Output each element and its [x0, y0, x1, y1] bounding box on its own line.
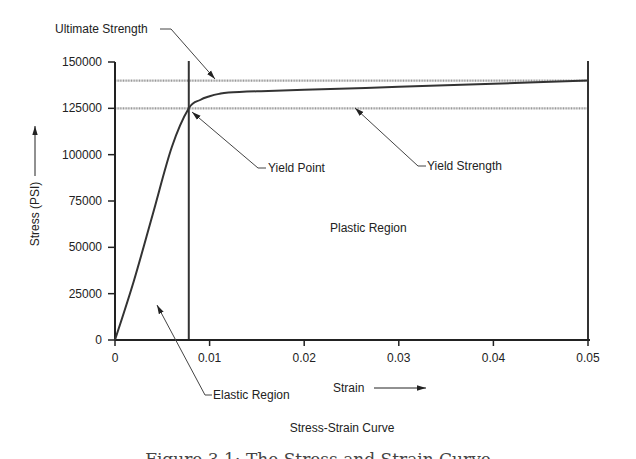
y-tick-label: 25000 [69, 287, 103, 301]
chart-title: Stress-Strain Curve [290, 421, 395, 435]
reference-lines [115, 61, 588, 340]
x-tick-label: 0.02 [293, 351, 317, 365]
x-axis-title: Strain [333, 381, 426, 395]
y-tick-label: 75000 [69, 194, 103, 208]
label-yield-point: Yield Point [268, 161, 326, 175]
annotation-ultimate-strength: Ultimate Strength [55, 22, 215, 79]
figure-caption: Figure 3.1: The Stress and Strain Curve [0, 446, 636, 459]
y-tick-label: 50000 [69, 240, 103, 254]
stress-strain-chart: 00.010.020.030.040.050250005000075000100… [0, 0, 636, 459]
x-tick-label: 0.01 [198, 351, 222, 365]
axis-ticks: 00.010.020.030.040.050250005000075000100… [62, 55, 600, 365]
y-tick-label: 150000 [62, 55, 102, 69]
y-axis-title: Stress (PSI) [28, 126, 42, 246]
x-axis-label: Strain [333, 381, 364, 395]
x-tick-label: 0.03 [387, 351, 411, 365]
annotation-elastic-region: Elastic Region [157, 305, 290, 402]
annotation-yield-point: Yield Point [140, 110, 326, 175]
x-tick-label: 0.05 [576, 351, 600, 365]
x-tick-label: 0.04 [482, 351, 506, 365]
label-plastic-region: Plastic Region [330, 221, 407, 235]
y-tick-label: 0 [95, 333, 102, 347]
label-elastic-region: Elastic Region [213, 388, 290, 402]
y-tick-label: 100000 [62, 148, 102, 162]
x-tick-label: 0 [112, 351, 119, 365]
y-axis-label: Stress (PSI) [28, 182, 42, 247]
y-tick-label: 125000 [62, 101, 102, 115]
annotation-yield-strength: Yield Strength [355, 108, 502, 173]
label-yield-strength: Yield Strength [427, 159, 502, 173]
label-ultimate-strength: Ultimate Strength [55, 22, 148, 36]
stress-strain-curve [115, 81, 588, 340]
axes [115, 62, 590, 340]
